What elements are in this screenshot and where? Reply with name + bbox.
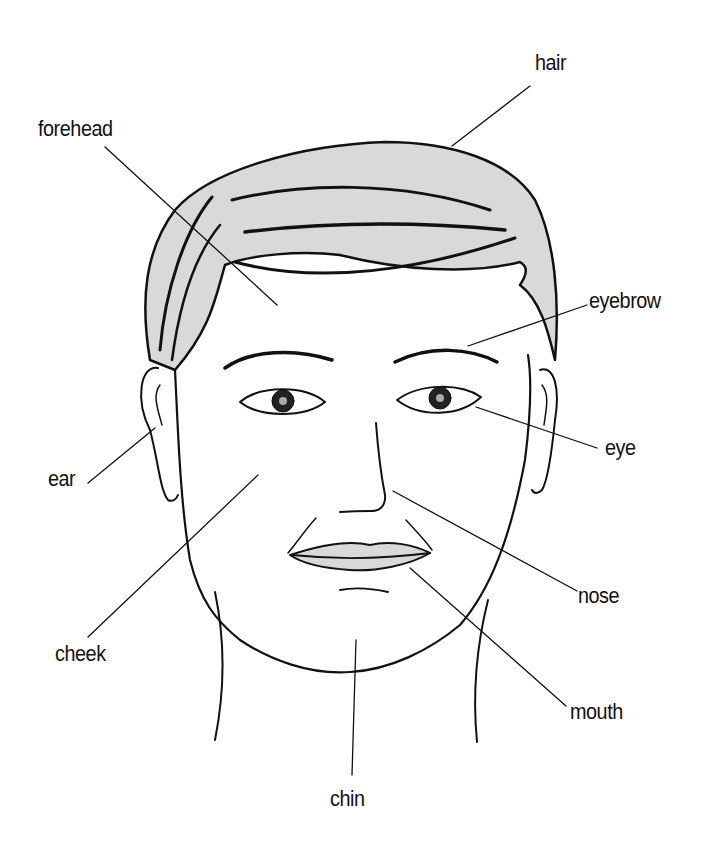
label-eyebrow: eyebrow: [589, 290, 661, 312]
left-eyebrow: [225, 352, 332, 368]
label-nose: nose: [578, 585, 619, 607]
label-ear: ear: [48, 468, 75, 490]
label-hair: hair: [535, 52, 566, 74]
label-chin: chin: [330, 788, 365, 810]
label-forehead: forehead: [38, 118, 113, 140]
face-outline: [175, 355, 530, 672]
hair-shape: [145, 142, 556, 370]
nose: [340, 423, 385, 512]
label-eye: eye: [605, 437, 636, 459]
label-mouth: mouth: [570, 701, 623, 723]
right-eyebrow: [395, 350, 497, 362]
label-cheek: cheek: [55, 643, 106, 665]
